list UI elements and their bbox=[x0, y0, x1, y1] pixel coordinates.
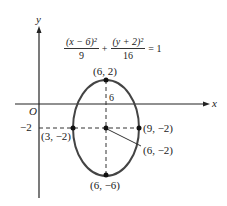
point-label-left: (3, −2) bbox=[41, 131, 71, 142]
center-point bbox=[104, 126, 109, 131]
x-axis-label: x bbox=[212, 98, 217, 109]
point-label-center: (6, −2) bbox=[143, 145, 173, 156]
y-axis-arrow-icon bbox=[37, 26, 42, 33]
equation-term1: (x − 6)² 9 bbox=[64, 36, 99, 61]
point-label-right: (9, −2) bbox=[143, 123, 173, 134]
origin-label: O bbox=[29, 106, 37, 117]
vertex-bottom-point bbox=[104, 173, 109, 178]
covertex-left-point bbox=[71, 126, 76, 131]
equation-term2: (y + 2)² 16 bbox=[111, 36, 146, 61]
point-label-bottom: (6, −6) bbox=[90, 180, 120, 191]
x-axis-arrow-icon bbox=[203, 102, 210, 107]
ellipse-equation: (x − 6)² 9 + (y + 2)² 16 = 1 bbox=[64, 36, 162, 61]
vertex-top-point bbox=[104, 78, 109, 83]
ellipse-diagram bbox=[0, 0, 227, 206]
axis-length-label: 6 bbox=[109, 93, 114, 103]
point-label-top: (6, 2) bbox=[93, 66, 117, 77]
center-pointer-line bbox=[107, 129, 141, 146]
covertex-right-point bbox=[137, 126, 142, 131]
y-tick-label: −2 bbox=[20, 122, 32, 133]
y-axis-label: y bbox=[36, 14, 41, 25]
